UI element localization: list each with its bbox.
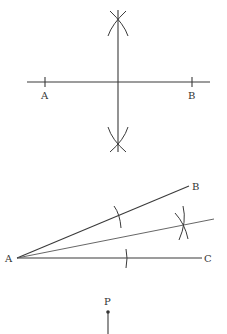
label-p: P — [104, 296, 111, 307]
label-a: A — [40, 90, 49, 101]
label-c: C — [204, 253, 212, 264]
arc-top-right — [110, 11, 128, 36]
geometry-constructions: A B A B C P — [0, 0, 227, 334]
label-b: B — [188, 90, 195, 101]
arc-bottom-right — [110, 127, 128, 152]
arc-top-left — [108, 11, 126, 36]
angle-bisector-ray — [17, 219, 214, 258]
arc-bottom-left — [108, 127, 126, 152]
angle-bisector-figure: A B C — [4, 181, 214, 268]
ray-ab — [17, 186, 189, 258]
label-a: A — [4, 253, 13, 264]
perpendicular-bisector-figure: A B — [27, 10, 210, 152]
label-b: B — [192, 181, 199, 192]
perpendicular-from-point-figure: P — [104, 296, 111, 334]
